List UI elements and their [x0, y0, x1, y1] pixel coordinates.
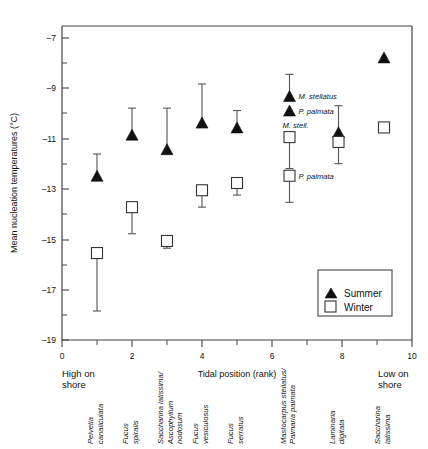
data-point-winter: [232, 178, 243, 196]
data-point-winter: [127, 202, 138, 234]
point-annotation: M. stell.: [283, 121, 309, 130]
left-shore-label: High on shore: [62, 368, 95, 390]
y-axis-title: Mean nucleation temperatures (°C): [9, 113, 19, 253]
species-label: Saccharina latissima/: [156, 371, 165, 444]
y-tick-label: –11: [42, 134, 56, 144]
data-point-summer: [378, 52, 390, 63]
data-point-winter: [284, 170, 295, 202]
species-label: Saccharina: [373, 406, 382, 444]
species-label: Ascophyllum: [166, 401, 175, 445]
x-tick-label: 4: [200, 351, 205, 361]
legend: Summer Winter: [318, 270, 392, 316]
x-tick-label: 8: [340, 351, 345, 361]
y-tick-label: –9: [47, 83, 57, 93]
left-shore-label-line1: High on: [62, 368, 95, 379]
left-shore-label-line2: shore: [62, 379, 86, 390]
data-point-winter: [197, 185, 208, 207]
chart-svg: –7 –9 –11 –13 –15 –17 –19 Mean nucleatio…: [0, 0, 428, 449]
species-labels-layer: PelvetiacanaliculataFucusspiralisSacchar…: [86, 368, 392, 445]
species-label: vesiculosus: [201, 405, 210, 444]
data-point-summer: [284, 74, 296, 101]
data-point-winter: [162, 235, 173, 248]
x-tick-label: 0: [60, 351, 65, 361]
legend-label-winter: Winter: [344, 302, 374, 313]
point-annotation: P. palmata: [299, 107, 334, 116]
data-point-summer: [161, 108, 173, 155]
species-label: Fucus: [121, 423, 130, 444]
species-label: Fucus: [191, 423, 200, 444]
species-label: Pelvetia: [86, 417, 95, 444]
y-tick-label: –19: [42, 335, 56, 345]
species-label: Palmaria palmata: [288, 385, 297, 444]
y-axis-ticks: [62, 38, 69, 340]
right-shore-label: Low on shore: [378, 368, 409, 390]
data-point-summer: [284, 105, 296, 116]
legend-winter-marker-icon: [325, 301, 336, 312]
species-label: Fucus: [226, 423, 235, 444]
point-annotation: M. stellatus: [299, 92, 338, 101]
species-label: Mastocarpus stellatus/: [279, 368, 288, 444]
x-tick-label: 6: [270, 351, 275, 361]
data-point-winter: [92, 248, 103, 311]
y-tick-label: –7: [47, 33, 57, 43]
data-point-summer: [196, 84, 208, 128]
legend-label-summer: Summer: [344, 288, 382, 299]
right-shore-label-line2: shore: [378, 379, 402, 390]
right-shore-label-line1: Low on: [378, 368, 409, 379]
species-label: latissima: [383, 414, 392, 444]
nucleation-temperature-chart: –7 –9 –11 –13 –15 –17 –19 Mean nucleatio…: [0, 0, 428, 449]
species-label: spiralis: [131, 420, 140, 444]
species-label: digitata: [337, 420, 346, 445]
species-label: serratus: [236, 416, 245, 444]
data-point-winter: [379, 122, 390, 133]
point-annotation: P. palmata: [299, 172, 334, 181]
x-tick-label: 10: [407, 351, 417, 361]
data-point-winter: [284, 132, 295, 169]
x-axis-title: Tidal position (rank): [198, 369, 277, 379]
data-point-winter: [333, 136, 344, 163]
y-tick-label: –15: [42, 235, 56, 245]
data-point-summer: [91, 154, 103, 181]
y-tick-label: –17: [42, 285, 56, 295]
x-axis-tick-labels: 0 2 4 6 8 10: [60, 351, 417, 361]
data-point-summer: [333, 106, 345, 138]
species-label: Laminaria: [328, 411, 337, 444]
y-tick-label: –13: [42, 184, 56, 194]
data-point-summer: [126, 108, 138, 140]
x-tick-label: 2: [130, 351, 135, 361]
data-point-summer: [231, 111, 243, 133]
x-axis-ticks: [62, 340, 412, 347]
species-label: canaliculata: [96, 404, 105, 444]
y-axis-tick-labels: –7 –9 –11 –13 –15 –17 –19: [42, 33, 56, 345]
species-label: nodosum: [175, 413, 184, 444]
